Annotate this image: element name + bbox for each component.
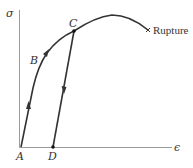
rupture-label: Rupture [153, 24, 189, 36]
arrow-up-icon [43, 49, 49, 57]
point-c-label: C [69, 17, 78, 30]
y-axis-label: σ [6, 7, 14, 20]
point-d-dot [51, 145, 55, 149]
point-a-label: A [15, 150, 24, 163]
x-axis-label: ϵ [174, 141, 180, 154]
loading-curve [21, 15, 148, 147]
stress-strain-diagram: σ ϵ A B C D Rupture [0, 0, 193, 168]
point-b-label: B [29, 54, 38, 67]
point-d-label: D [47, 150, 57, 163]
rupture-x-icon [146, 28, 150, 32]
